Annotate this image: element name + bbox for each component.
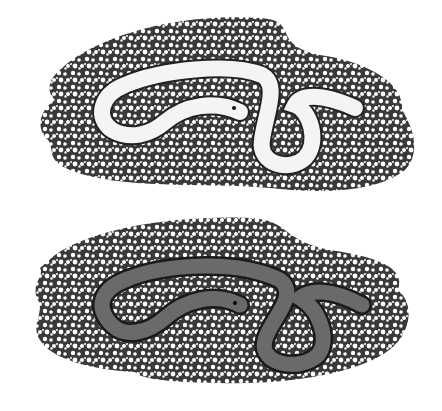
bottom-panel — [36, 218, 409, 384]
snake-eye — [232, 106, 236, 110]
snake-eye — [233, 301, 237, 305]
top-panel — [41, 17, 415, 191]
illustration — [0, 0, 442, 411]
